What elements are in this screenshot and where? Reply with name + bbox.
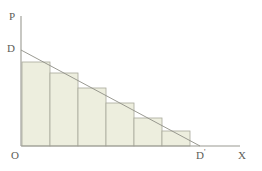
riemann-bar xyxy=(22,62,50,146)
riemann-bar xyxy=(78,88,106,146)
riemann-bar xyxy=(50,73,78,146)
demand-intercept-label: D xyxy=(7,42,15,54)
demand-curve-figure: P D O D ' X xyxy=(0,0,262,171)
riemann-bar-group xyxy=(22,62,190,146)
riemann-bar xyxy=(106,103,134,146)
origin-label: O xyxy=(11,149,19,161)
demand-x-intercept-label: D xyxy=(196,149,204,161)
riemann-bar xyxy=(134,118,162,146)
figure-canvas: P D O D ' X xyxy=(0,0,262,171)
demand-x-intercept-prime-label: ' xyxy=(204,148,206,157)
x-axis-label: X xyxy=(238,149,246,161)
p-axis-label: P xyxy=(9,10,15,22)
